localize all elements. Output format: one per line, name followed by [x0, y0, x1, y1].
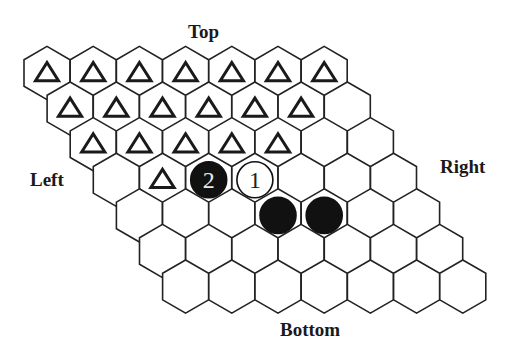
stone-move-number: 2 — [203, 167, 215, 193]
label-bottom: Bottom — [280, 320, 340, 339]
black-stone — [306, 197, 342, 233]
label-right: Right — [440, 157, 485, 176]
black-stone — [260, 197, 296, 233]
label-top: Top — [188, 22, 219, 41]
label-left: Left — [30, 170, 64, 189]
hex-board: 21 — [0, 0, 514, 357]
stone-move-number: 1 — [249, 167, 261, 193]
